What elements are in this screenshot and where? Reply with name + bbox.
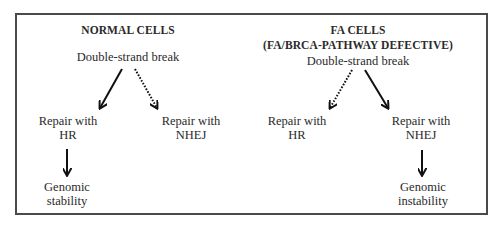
normal-hr-solid-arrow-icon xyxy=(100,69,122,108)
normal-nhej-dotted-arrow-icon xyxy=(135,69,157,108)
arrows-layer xyxy=(0,0,498,227)
fa-hr-dotted-arrow-icon xyxy=(330,70,352,108)
fa-nhej-solid-arrow-icon xyxy=(365,70,388,108)
